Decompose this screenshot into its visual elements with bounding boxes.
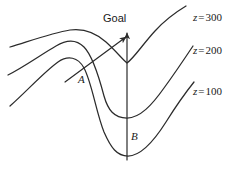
contour-equals-z200: = [197,44,205,56]
contour-label-z200: z=200 [193,45,222,56]
contour-label-z100: z=100 [193,86,222,97]
contour-line-z100 [10,58,194,156]
contour-label-z300: z=300 [193,12,222,23]
point-a-label: A [78,74,85,85]
gradient-arrow-diagonal [65,37,126,82]
contour-value-z100: 100 [206,85,223,97]
contour-equals-z300: = [197,11,205,23]
point-b-label: B [131,131,138,142]
contour-line-z300 [10,6,186,63]
contour-diagram-figure: Goal A B z=300 z=200 z=100 [0,0,247,180]
contour-line-z200 [8,41,193,118]
goal-label: Goal [103,13,126,24]
contour-value-z300: 300 [206,11,223,23]
contour-value-z200: 200 [206,44,223,56]
contour-equals-z100: = [197,85,205,97]
